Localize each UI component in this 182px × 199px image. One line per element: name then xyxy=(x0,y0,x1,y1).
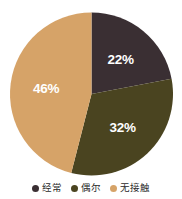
legend-label-often: 经常 xyxy=(42,183,62,193)
chart-legend: 经常 偶尔 无接触 xyxy=(0,179,182,197)
legend-label-no-contact: 无接触 xyxy=(120,183,150,193)
pie-chart: 22% 32% 46% 经常 偶尔 无接触 xyxy=(0,0,182,199)
legend-label-occasionally: 偶尔 xyxy=(81,183,101,193)
pie-slice-label-no-contact: 46% xyxy=(33,81,60,96)
pie-slice-label-occasionally: 32% xyxy=(109,120,136,135)
legend-item-occasionally[interactable]: 偶尔 xyxy=(71,183,101,193)
legend-dot-icon xyxy=(110,185,117,192)
pie-svg: 22% 32% 46% xyxy=(0,0,182,178)
pie-graphic: 22% 32% 46% xyxy=(0,0,182,178)
legend-dot-icon xyxy=(71,185,78,192)
legend-item-often[interactable]: 经常 xyxy=(32,183,62,193)
legend-dot-icon xyxy=(32,185,39,192)
pie-slice-label-often: 22% xyxy=(107,52,134,67)
legend-item-no-contact[interactable]: 无接触 xyxy=(110,183,150,193)
